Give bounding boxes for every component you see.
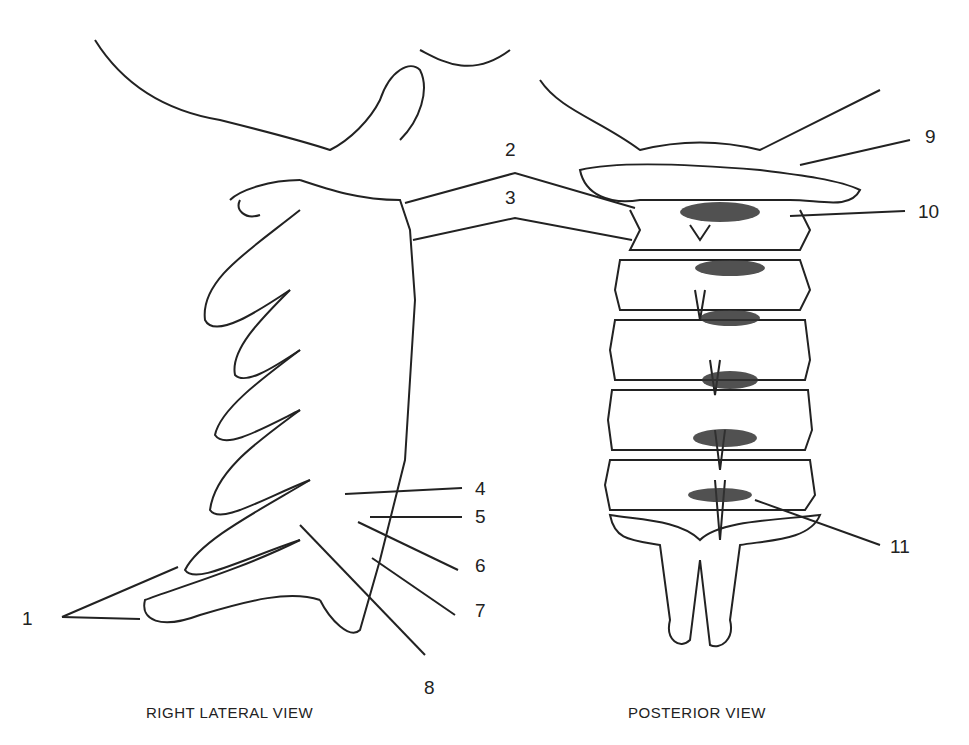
caption-right-lateral-view: RIGHT LATERAL VIEW [146, 704, 313, 721]
label-8: 8 [424, 677, 435, 699]
label-5: 5 [475, 506, 486, 528]
label-1: 1 [22, 608, 33, 630]
label-10: 10 [918, 201, 939, 223]
label-4: 4 [475, 478, 486, 500]
label-7: 7 [475, 600, 486, 622]
caption-posterior-view: POSTERIOR VIEW [628, 704, 766, 721]
label-3: 3 [505, 187, 516, 209]
label-11: 11 [890, 536, 910, 558]
cervical-spine-illustration [0, 0, 969, 745]
label-2: 2 [505, 139, 516, 161]
label-6: 6 [475, 555, 486, 577]
label-9: 9 [925, 126, 936, 148]
